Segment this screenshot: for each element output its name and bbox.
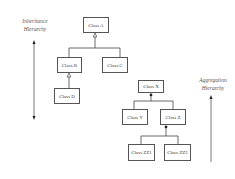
aggregation-diamond-icon <box>164 125 167 129</box>
class-zz2-box[interactable]: Class ZZ2 <box>164 144 191 161</box>
class-z-box[interactable]: Class Z <box>160 109 186 125</box>
inheritance-double-arrow-icon <box>33 40 36 120</box>
label-line: Aggregation <box>188 76 235 84</box>
inheritance-hierarchy-label: Inheritance Hierarchy <box>10 17 60 33</box>
class-a-box[interactable]: Class A <box>83 17 109 33</box>
aggregation-up-arrow-icon <box>210 95 213 162</box>
aggregation-diamond-icon <box>149 93 152 97</box>
aggregation-hierarchy-label: Aggregation Hierarchy <box>188 76 235 92</box>
inheritance-triangle-icon <box>93 33 97 37</box>
label-line: Hierarchy <box>188 84 235 92</box>
class-c-box[interactable]: Class C <box>102 57 128 73</box>
inheritance-triangle-icon <box>67 73 71 77</box>
label-line: Inheritance <box>10 17 60 25</box>
class-d-box[interactable]: Class D <box>54 88 80 104</box>
class-x-box[interactable]: Class X <box>138 80 164 93</box>
class-zz1-box[interactable]: Class ZZ1 <box>128 144 155 161</box>
label-line: Hierarchy <box>10 25 60 33</box>
class-b-box[interactable]: Class B <box>57 57 82 73</box>
class-y-box[interactable]: Class Y <box>122 109 148 125</box>
